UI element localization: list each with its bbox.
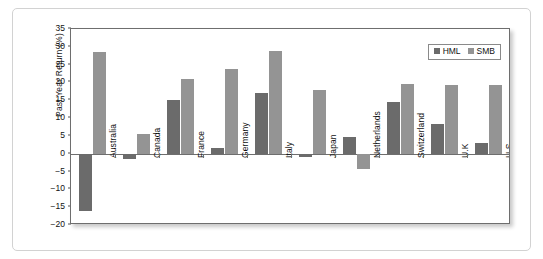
- bar-hml-canada: [123, 154, 136, 159]
- x-axis-category-label: Australia: [108, 124, 118, 158]
- legend-label-smb: SMB: [477, 47, 495, 56]
- x-axis-tick-mark: [467, 154, 468, 158]
- y-axis-tick-label: −5: [55, 166, 65, 175]
- x-axis-tick-mark: [335, 154, 336, 158]
- y-axis-tick-label: −10: [51, 184, 65, 193]
- bar-smb-canada: [137, 134, 150, 154]
- legend-swatch-smb-icon: [468, 48, 474, 54]
- x-axis-tick-mark: [423, 154, 424, 158]
- chart-legend: HML SMB: [428, 44, 501, 60]
- y-axis-tick-label: 5: [60, 131, 65, 140]
- bar-smb-australia: [93, 52, 106, 154]
- y-axis-tick-label: 0: [60, 148, 65, 157]
- y-axis-tick-label: 20: [56, 77, 65, 86]
- x-axis-category-label: Canada: [152, 127, 162, 157]
- bar-smb-germany: [225, 69, 238, 153]
- y-axis-tick-label: 25: [56, 59, 65, 68]
- legend-entry-hml: HML: [434, 47, 461, 56]
- y-axis-tick-label: 15: [56, 95, 65, 104]
- chart-screenshot: Past Year Return (%) 35302520151050−5−10…: [0, 0, 543, 259]
- bar-smb-netherlands: [357, 154, 370, 169]
- plot-area: AustraliaCanadaFranceGermanyItalyJapanNe…: [70, 28, 510, 224]
- y-axis-tick-label: 30: [56, 42, 65, 51]
- x-axis-tick-mark: [115, 154, 116, 158]
- bar-hml-australia: [79, 154, 92, 211]
- y-axis-tick-labels: 35302520151050−5−10−15−20: [44, 28, 68, 224]
- x-axis-category-label: U.S: [504, 143, 509, 157]
- bar-hml-netherlands: [343, 137, 356, 153]
- bar-smb-france: [181, 79, 194, 154]
- y-axis-tick-label: 10: [56, 113, 65, 122]
- x-axis-tick-mark: [291, 154, 292, 158]
- x-axis-tick-mark: [247, 154, 248, 158]
- x-axis-category-label: U.K: [460, 143, 470, 157]
- x-axis-category-label: France: [196, 131, 206, 158]
- bar-hml-japan: [299, 154, 312, 158]
- bar-smb-japan: [313, 90, 326, 154]
- legend-entry-smb: SMB: [468, 47, 495, 56]
- bar-hml-us: [475, 143, 488, 154]
- y-axis-tick-label: 35: [56, 24, 65, 33]
- bar-hml-switzerland: [387, 102, 400, 154]
- legend-label-hml: HML: [443, 47, 461, 56]
- bar-smb-switzerland: [401, 84, 414, 154]
- bar-hml-italy: [255, 93, 268, 154]
- bar-smb-italy: [269, 51, 282, 154]
- x-axis-tick-mark: [379, 154, 380, 158]
- bar-hml-uk: [431, 124, 444, 154]
- x-axis-category-label: Japan: [328, 134, 338, 158]
- bar-smb-us: [489, 85, 502, 154]
- bar-hml-france: [167, 100, 180, 153]
- bar-smb-uk: [445, 85, 458, 153]
- x-axis-category-label: Netherlands: [372, 111, 382, 158]
- x-axis-category-label: Switzerland: [416, 113, 426, 158]
- y-axis-tick-label: −20: [51, 220, 65, 229]
- x-axis-category-label: Germany: [240, 122, 250, 158]
- x-axis-tick-mark: [159, 154, 160, 158]
- bar-chart-figure: Past Year Return (%) 35302520151050−5−10…: [22, 18, 522, 242]
- y-axis-tick-label: −15: [51, 202, 65, 211]
- legend-swatch-hml-icon: [434, 48, 440, 54]
- x-axis-category-label: Italy: [284, 142, 294, 158]
- x-axis-tick-mark: [203, 154, 204, 158]
- bar-hml-germany: [211, 148, 224, 153]
